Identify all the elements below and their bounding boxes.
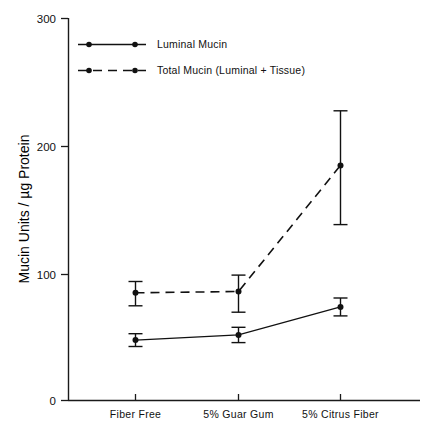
luminal-mucin-point-0 bbox=[133, 337, 139, 343]
x-label-fiber-free: Fiber Free bbox=[110, 408, 161, 420]
legend-swatch-marker-right bbox=[132, 42, 138, 48]
total-mucin-point-0 bbox=[133, 290, 139, 296]
x-axis-labels: Fiber Free 5% Guar Gum 5% Citrus Fiber bbox=[110, 408, 379, 420]
legend-swatch-marker-left-2 bbox=[86, 68, 92, 74]
total-mucin-point-1 bbox=[236, 289, 242, 295]
legend-label-total-mucin: Total Mucin (Luminal + Tissue) bbox=[157, 64, 305, 76]
y-tick-label-0: 0 bbox=[50, 395, 56, 407]
series-total-mucin bbox=[129, 111, 348, 312]
y-tick-label-200: 200 bbox=[37, 141, 56, 153]
y-axis-title: Mucin Units / µg Protein bbox=[16, 135, 32, 284]
luminal-mucin-point-2 bbox=[338, 304, 344, 310]
total-mucin-point-2 bbox=[338, 162, 344, 168]
total-mucin-line bbox=[136, 165, 341, 292]
x-label-citrus-fiber: 5% Citrus Fiber bbox=[302, 408, 379, 420]
chart-container: 300 200 100 0 Mucin Units / µg Protein F… bbox=[0, 0, 432, 436]
luminal-mucin-point-1 bbox=[236, 332, 242, 338]
legend-swatch-marker-left bbox=[86, 42, 92, 48]
y-axis-ticks: 300 200 100 0 bbox=[37, 13, 68, 407]
y-tick-label-300: 300 bbox=[37, 13, 56, 25]
legend-swatch-marker-right-2 bbox=[132, 68, 138, 74]
legend-label-luminal-mucin: Luminal Mucin bbox=[157, 38, 227, 50]
x-axis-ticks bbox=[136, 394, 341, 400]
chart-legend: Luminal Mucin Total Mucin (Luminal + Tis… bbox=[78, 38, 305, 76]
x-label-guar-gum: 5% Guar Gum bbox=[203, 408, 273, 420]
mucin-line-chart: 300 200 100 0 Mucin Units / µg Protein F… bbox=[0, 0, 432, 436]
y-tick-label-100: 100 bbox=[37, 269, 56, 281]
legend-entry-luminal-mucin[interactable]: Luminal Mucin bbox=[78, 38, 227, 50]
legend-entry-total-mucin[interactable]: Total Mucin (Luminal + Tissue) bbox=[78, 64, 305, 76]
